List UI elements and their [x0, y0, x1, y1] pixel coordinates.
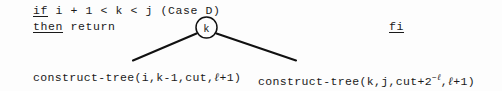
then-statement-text: return [63, 20, 116, 33]
keyword-fi: fi [389, 20, 404, 33]
leaf-right-open-paren: ( [360, 75, 367, 88]
root-node-label: k [203, 23, 209, 35]
leaf-right-name: construct-tree [258, 75, 360, 88]
branch-right-edge [217, 34, 297, 61]
leaf-right-exponent: −ℓ [432, 73, 441, 82]
branch-left-edge [133, 34, 197, 61]
leaf-left-name: construct-tree [33, 71, 135, 84]
leaf-right-close-paren: ) [468, 75, 475, 88]
pseudocode-if-line: if i + 1 < k < j (Case D) [33, 4, 221, 18]
leaf-right-args-mid: , [441, 75, 448, 88]
leaf-label-right: construct-tree(k,j,cut+2−ℓ,ℓ+1) [258, 70, 475, 89]
leaf-right-args: k,j,cut+2 [367, 75, 432, 88]
keyword-then: then [33, 20, 63, 33]
leaf-left-close-paren: ) [234, 71, 241, 84]
leaf-left-open-paren: ( [135, 71, 142, 84]
leaf-left-args-tail: +1 [219, 71, 234, 84]
pseudocode-then-line: then return [33, 20, 116, 34]
pseudocode-fi-line: fi [389, 20, 404, 34]
figure-canvas: if i + 1 < k < j (Case D) then return fi… [0, 0, 502, 91]
leaf-left-args: i,k-1,cut, [142, 71, 215, 84]
if-condition-text: i + 1 < k < j (Case D) [48, 4, 221, 17]
root-node-circle [196, 17, 217, 38]
leaf-label-left: construct-tree(i,k-1,cut,ℓ+1) [33, 70, 241, 85]
keyword-if: if [33, 4, 48, 17]
leaf-right-args-tail: +1 [453, 75, 468, 88]
